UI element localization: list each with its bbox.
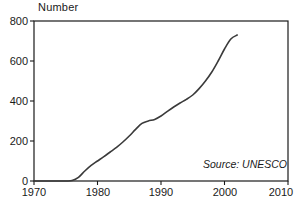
plot-frame <box>34 21 288 181</box>
chart-container: Number 800 600 400 200 0 1970 1980 1990 … <box>0 0 301 208</box>
plot-svg <box>0 0 301 208</box>
data-series-line <box>34 35 237 181</box>
tick-marks <box>30 21 288 185</box>
